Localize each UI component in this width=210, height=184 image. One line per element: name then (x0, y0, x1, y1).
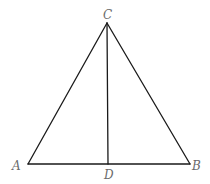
label-d: D (103, 168, 114, 182)
segment-ac (28, 23, 107, 164)
label-c: C (103, 8, 112, 22)
segment-cd (107, 23, 108, 164)
label-b: B (191, 159, 201, 173)
triangle-diagram: C A B D (0, 0, 210, 184)
segment-cb (107, 23, 190, 164)
label-a: A (11, 159, 21, 173)
